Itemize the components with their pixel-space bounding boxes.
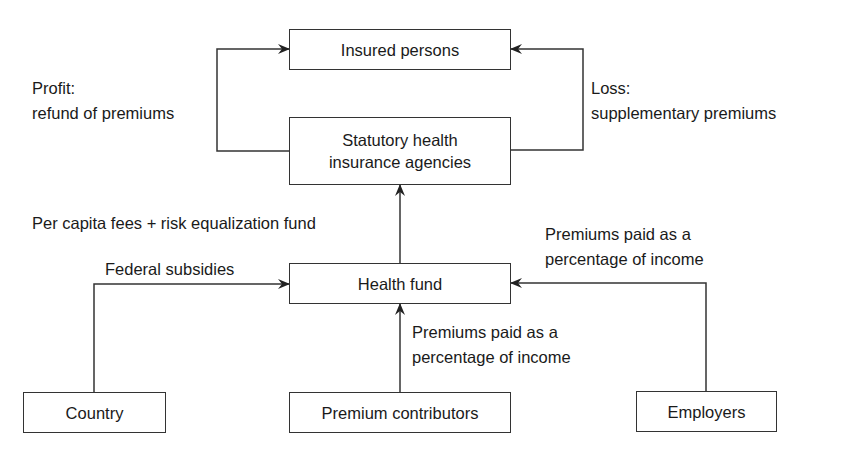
edge-label-line: Premiums paid as a xyxy=(412,320,571,345)
edge-label-line: supplementary premiums xyxy=(591,101,776,126)
federal-subsidies-arrow xyxy=(94,284,289,392)
node-label: Premium contributors xyxy=(322,402,479,424)
node-health-fund: Health fund xyxy=(289,263,511,304)
profit-arrow xyxy=(217,49,290,151)
edge-label-employer-premiums: Premiums paid as a percentage of income xyxy=(545,222,704,272)
edge-label-line: Premiums paid as a xyxy=(545,222,704,247)
edge-label-federal-subsidies: Federal subsidies xyxy=(105,257,234,282)
edge-label-per-capita: Per capita fees + risk equalization fund xyxy=(32,211,316,236)
edge-label-contributor-premiums: Premiums paid as a percentage of income xyxy=(412,320,571,370)
node-label: Employers xyxy=(668,401,746,423)
node-employers: Employers xyxy=(636,391,777,432)
node-label-line1: Statutory health xyxy=(342,129,458,151)
edge-label-loss: Loss: supplementary premiums xyxy=(591,76,776,126)
node-insured-persons: Insured persons xyxy=(289,29,511,70)
node-premium-contributors: Premium contributors xyxy=(289,392,511,433)
node-statutory-agencies: Statutory health insurance agencies xyxy=(289,117,511,185)
edge-label-line: Profit: xyxy=(32,76,174,101)
node-label: Insured persons xyxy=(341,39,459,61)
node-label: Health fund xyxy=(358,273,442,295)
node-country: Country xyxy=(23,392,166,433)
edge-label-line: percentage of income xyxy=(545,247,704,272)
node-label: Country xyxy=(66,402,124,424)
edge-label-line: refund of premiums xyxy=(32,101,174,126)
edge-label-line: Loss: xyxy=(591,76,776,101)
node-label-line2: insurance agencies xyxy=(329,151,471,173)
edge-label-line: percentage of income xyxy=(412,345,571,370)
loss-arrow xyxy=(510,49,583,150)
edge-label-profit: Profit: refund of premiums xyxy=(32,76,174,126)
